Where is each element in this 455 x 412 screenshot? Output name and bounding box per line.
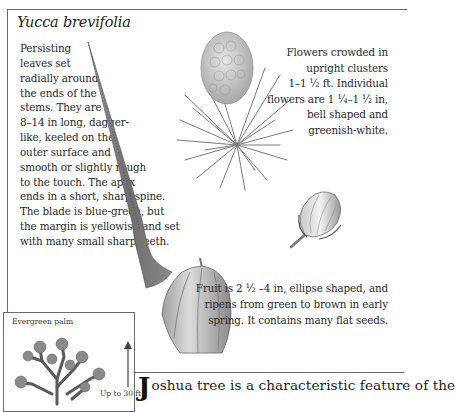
flower-description: Flowers crowded in upright clusters 1–1 … — [267, 45, 388, 138]
flower-line: bell shaped and — [267, 107, 388, 123]
fruit-line: spring. It contains many flat seeds. — [196, 312, 388, 328]
habit-label: Evergreen palm — [12, 317, 73, 326]
drop-cap: J — [138, 372, 150, 402]
body-text-line: oshua tree is a characteristic feature o… — [151, 377, 455, 393]
fruit-description: Fruit is 2 ½ –4 in, ellipse shaped, and … — [196, 280, 388, 328]
fruit-line: ripens from green to brown in early — [196, 296, 388, 312]
flower-line: Flowers crowded in — [267, 45, 388, 61]
flower-line: greenish-white. — [267, 123, 388, 139]
joshua-tree-silhouette — [12, 339, 107, 404]
flower-line: 1–1 ½ ft. Individual — [267, 76, 388, 92]
height-label: Up to 30 ft — [100, 389, 141, 398]
body-paragraph: Joshua tree is a characteristic feature … — [138, 377, 455, 397]
habit-box: Evergreen palm Up to 30 ft — [3, 312, 135, 412]
flower-line: upright clusters — [267, 61, 388, 77]
flower-bud-illustration — [285, 185, 350, 250]
arrow-up-icon — [124, 341, 132, 387]
species-title: Yucca brevifolia — [17, 14, 131, 30]
panel-bottom-rule — [134, 372, 404, 373]
fruit-line: Fruit is 2 ½ –4 in, ellipse shaped, and — [196, 280, 388, 296]
flower-line: flowers are 1 ¼–1 ½ in, — [267, 92, 388, 108]
